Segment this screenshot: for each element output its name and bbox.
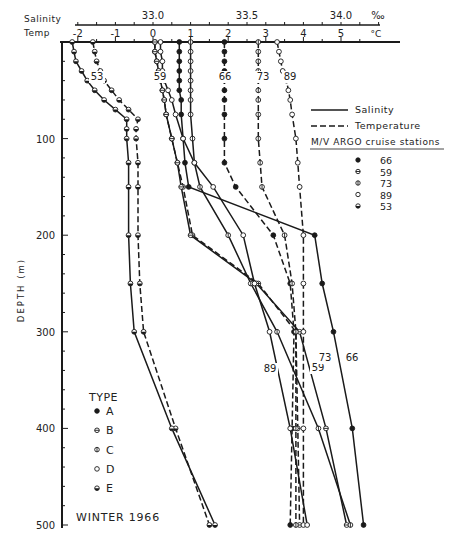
type-legend-label: A bbox=[106, 405, 114, 418]
temp-tick-label: 4 bbox=[300, 28, 306, 39]
temp-tick-label: 5 bbox=[338, 28, 344, 39]
depth-tick-label: 200 bbox=[36, 230, 55, 241]
station-legend-label: 59 bbox=[380, 167, 392, 178]
depth-tick-label: 400 bbox=[36, 423, 55, 434]
station-legend-label: 53 bbox=[380, 201, 392, 212]
depth-axis-label: DEPTH (m) bbox=[16, 258, 26, 322]
season-label: WINTER 1966 bbox=[76, 511, 160, 524]
axes: 33.033.534.0‰SalinityTemp-2-1012345°C100… bbox=[16, 10, 400, 531]
station-label: 89 bbox=[264, 363, 277, 374]
depth-tick-label: 300 bbox=[36, 327, 55, 338]
stations-title: M/V ARGO cruise stations bbox=[311, 137, 440, 147]
station-label: 66 bbox=[346, 352, 359, 363]
station-legend-label: 66 bbox=[380, 155, 392, 166]
chart-svg: 33.033.534.0‰SalinityTemp-2-1012345°C100… bbox=[0, 0, 458, 541]
station-label: 73 bbox=[319, 352, 332, 363]
temp-tick-label: 0 bbox=[150, 28, 156, 39]
legend-salinity-label: Salinity bbox=[355, 104, 394, 115]
station-label: 53 bbox=[91, 71, 104, 82]
type-legend: TYPEABCDEWINTER 1966 bbox=[76, 391, 160, 524]
type-legend-label: D bbox=[106, 463, 114, 476]
legend-temperature-label: Temperature bbox=[354, 120, 421, 131]
station-label: 66 bbox=[219, 71, 232, 82]
station-label: 89 bbox=[284, 71, 297, 82]
depth-tick-label: 500 bbox=[36, 520, 55, 531]
type-legend-label: B bbox=[106, 424, 114, 437]
temp-axis-label: Temp bbox=[23, 28, 50, 38]
type-legend-label: C bbox=[106, 444, 114, 457]
station-label: 73 bbox=[257, 71, 270, 82]
temp-tick-label: -2 bbox=[73, 28, 83, 39]
temp-tick-label: 3 bbox=[263, 28, 269, 39]
temp-tick-label: 2 bbox=[225, 28, 231, 39]
station-legend-label: 89 bbox=[380, 190, 392, 201]
type-legend-label: E bbox=[106, 482, 113, 495]
series-station-53-salinity bbox=[70, 40, 218, 528]
temp-unit: °C bbox=[371, 29, 382, 39]
type-title: TYPE bbox=[88, 391, 118, 404]
temp-tick-label: -1 bbox=[110, 28, 120, 39]
salinity-tick-label: 33.5 bbox=[236, 10, 258, 21]
stations-legend: 6659738953 bbox=[345, 152, 425, 220]
salinity-tick-label: 34.0 bbox=[330, 10, 352, 21]
station-legend-label: 73 bbox=[380, 178, 392, 189]
salinity-tick-label: 33.0 bbox=[142, 10, 164, 21]
temp-tick-label: 1 bbox=[187, 28, 193, 39]
salinity-unit: ‰ bbox=[371, 10, 384, 21]
station-label: 59 bbox=[154, 71, 167, 82]
salinity-axis-label: Salinity bbox=[24, 14, 61, 24]
depth-tick-label: 100 bbox=[36, 134, 55, 145]
